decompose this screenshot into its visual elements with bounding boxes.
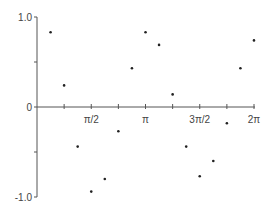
data-point xyxy=(239,67,242,70)
y-tick-label: 1.0 xyxy=(18,12,32,23)
data-point xyxy=(253,39,256,42)
data-points xyxy=(49,31,255,193)
data-point xyxy=(198,175,201,178)
data-point xyxy=(90,190,93,193)
x-tick-label: 3π/2 xyxy=(189,114,210,125)
data-point xyxy=(76,145,79,148)
data-point xyxy=(63,84,66,87)
scatter-chart: 1.00-1.0π/2π3π/22π xyxy=(0,0,275,218)
data-point xyxy=(185,145,188,148)
x-tick-label: π xyxy=(142,114,149,125)
y-tick-label: -1.0 xyxy=(15,192,33,203)
data-point xyxy=(158,44,161,47)
y-tick-label: 0 xyxy=(26,102,32,113)
x-tick-label: 2π xyxy=(248,114,261,125)
data-point xyxy=(103,178,106,181)
data-point xyxy=(212,160,215,163)
x-tick-label: π/2 xyxy=(84,114,100,125)
data-point xyxy=(144,31,147,34)
data-point xyxy=(117,130,120,133)
data-point xyxy=(131,67,134,70)
data-point xyxy=(226,122,229,125)
data-point xyxy=(171,93,174,96)
data-point xyxy=(49,31,52,34)
